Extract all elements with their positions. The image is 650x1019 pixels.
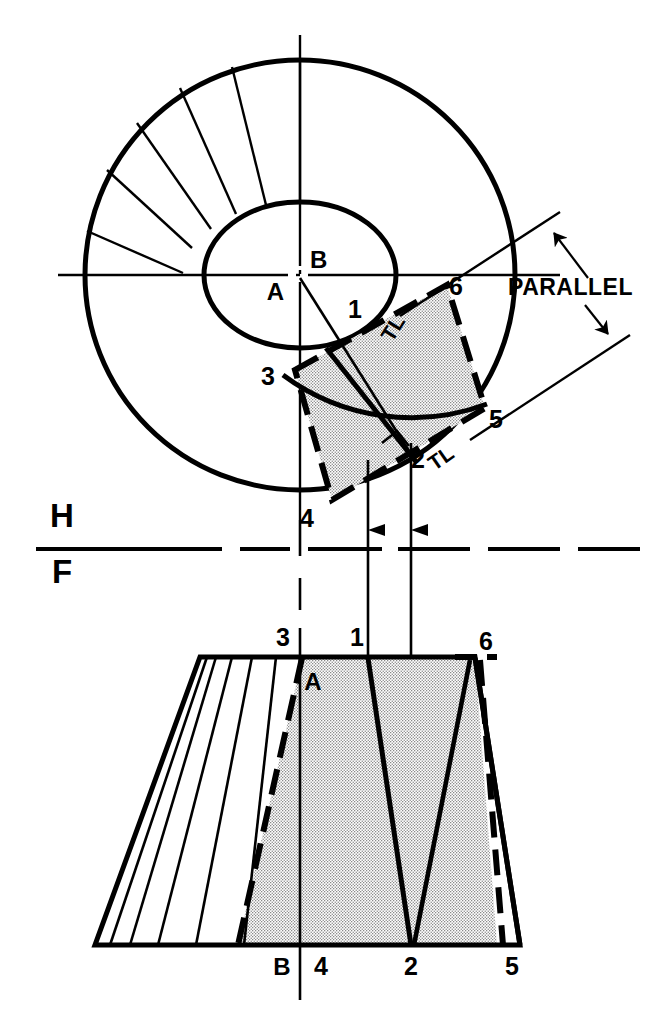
technical-drawing-figure: B A 1 2 3 4 5 6 TL TL PARALLEL H F [0,0,650,1019]
top-view-point-3: 3 [261,362,275,390]
top-view-label-B: B [310,246,327,273]
front-view-point-A: A [304,668,321,695]
hf-label-H: H [50,497,74,534]
front-view-point-2: 2 [404,952,418,980]
top-view-label-A: A [267,278,284,305]
hf-label-F: F [52,553,72,590]
parallel-note-label: PARALLEL [508,274,633,300]
top-view-point-1: 1 [348,295,362,323]
top-view-point-4: 4 [300,504,314,532]
top-view-point-6: 6 [449,272,463,300]
front-view-point-6: 6 [479,627,493,655]
front-view-point-3: 3 [276,623,290,651]
top-view-point-5: 5 [489,405,503,433]
front-view-point-B: B [273,953,290,980]
front-view-point-1: 1 [350,623,364,651]
front-view-point-4: 4 [314,952,328,980]
front-view-point-5: 5 [505,952,519,980]
top-view-point-2: 2 [411,445,425,473]
drawing-canvas: B A 1 2 3 4 5 6 TL TL PARALLEL H F [0,0,650,1019]
